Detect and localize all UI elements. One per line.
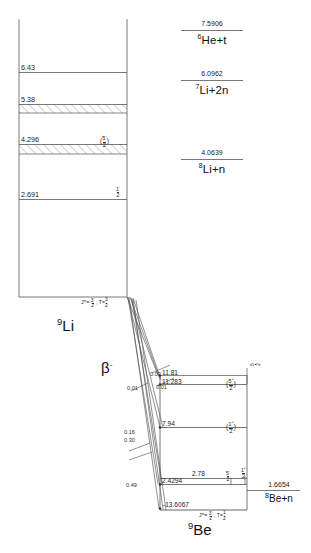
be9-level-energy-ground: -13.6067: [163, 502, 189, 509]
branch-intensity-0.16: 0.16: [124, 430, 135, 436]
li9-ground-jpi: Jπ= 3-2 ; T=32: [81, 297, 108, 309]
branch-intensity-0.01-b: 0.01: [127, 386, 138, 392]
branch-intensity-0.01-a: 0.01: [156, 385, 167, 391]
be9-spin-7.94: (1+2): [226, 420, 236, 435]
threshold-energy-4.0639: 4.0639: [181, 149, 243, 156]
beta-charge: -: [110, 360, 113, 369]
threshold-channel-li8-n: 8Li+n: [176, 162, 248, 175]
be9-frame: [160, 375, 247, 510]
threshold-channel-text-2: Li+n: [203, 163, 225, 175]
li9-level-energy-6.43: 6.43: [21, 64, 35, 71]
threshold-energy-6.0962: 6.0962: [181, 70, 243, 77]
branch-intensity-0.49: 0.49: [126, 483, 137, 489]
be9-spin-11.283: (5+2): [226, 377, 236, 392]
li9-level-energy-4.296: 4.296: [21, 136, 39, 143]
be9-level-energy-2.78: 2.78: [192, 471, 205, 478]
branch-intensity-0.30: 0.30: [124, 438, 135, 444]
nucleus-label-be9: 9Be: [188, 521, 212, 537]
be9-threshold-channel-be8-n: 8Be+n: [250, 492, 308, 504]
be9-level-energy-7.94: 7.94: [162, 421, 175, 428]
beta-minus-label: β-: [101, 360, 112, 375]
be9-symbol: Be: [193, 521, 211, 538]
be9-threshold-channel-text: Be+n: [269, 493, 293, 504]
branch-intensity-0.03: 0.03: [150, 372, 161, 378]
be9-spin-2.78: 1+2: [241, 467, 246, 479]
beta-glyph: β: [101, 359, 110, 376]
be9-spin-11.81: 52: [250, 363, 261, 366]
threshold-channel-li7-2n: 7Li+2n: [176, 83, 248, 96]
li9-spin-4.296: (5-2): [100, 134, 109, 149]
be9-level-energy-11.81: 11.81: [162, 370, 178, 377]
diagram-lines: [0, 0, 311, 553]
threshold-energy-7.5906: 7.5906: [181, 20, 243, 27]
be9-ground-jpi: Jπ= 3-2 ; T=12: [199, 510, 226, 522]
li9-frame: [19, 19, 127, 297]
be9-level-energy-2.4294: 2.4294: [162, 478, 182, 485]
li9-symbol: Li: [62, 317, 74, 334]
threshold-channel-he6-t: 6He+t: [176, 33, 248, 46]
be9-spin-2.4294: 5-2: [226, 470, 230, 482]
level-scheme-diagram: 6.43 5.38 4.296 2.691 (5-2) 1-2 Jπ= 3-2 …: [0, 0, 311, 553]
be9-level-energy-11.283: 11.283: [162, 379, 182, 386]
be9-threshold-energy-1.6654: 1.6654: [254, 481, 304, 488]
li9-level-energy-2.691: 2.691: [21, 191, 39, 198]
li9-level-energy-5.38: 5.38: [21, 96, 35, 103]
li9-spin-2.691: 1-2: [116, 186, 120, 198]
threshold-channel-text-1: Li+2n: [200, 84, 229, 96]
threshold-channel-text-0: He+t: [201, 34, 226, 46]
nucleus-label-li9: 9Li: [57, 317, 74, 333]
